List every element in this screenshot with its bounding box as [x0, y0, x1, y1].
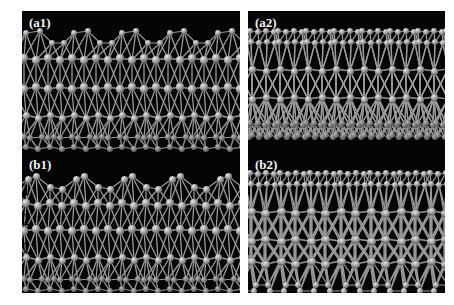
atom	[398, 181, 404, 187]
atom	[279, 238, 286, 245]
atom	[429, 238, 436, 245]
atom	[367, 170, 373, 176]
atom	[224, 83, 231, 90]
atom	[32, 56, 39, 63]
atom	[107, 146, 114, 153]
atom	[215, 144, 222, 151]
atom	[143, 144, 150, 151]
atom	[348, 39, 354, 45]
atom	[249, 96, 256, 103]
atom	[387, 288, 394, 293]
atom	[22, 54, 28, 61]
atom	[215, 112, 222, 119]
annotation-number: 1	[22, 181, 240, 199]
figure-canvas: (a1) (a2) 2121 (b1) (b2)	[0, 0, 454, 305]
atom	[360, 39, 366, 45]
atom	[131, 146, 138, 153]
annotation-number: 2	[22, 153, 240, 171]
atom	[428, 181, 434, 187]
atom	[278, 181, 284, 187]
atom	[171, 135, 178, 142]
atom	[56, 56, 63, 63]
atom	[303, 120, 310, 127]
atom	[443, 236, 446, 243]
atom	[389, 66, 396, 73]
atom	[323, 210, 330, 217]
atom	[152, 56, 159, 63]
atom	[375, 68, 382, 75]
atom	[155, 115, 162, 122]
atom	[303, 28, 309, 34]
atom	[429, 208, 436, 215]
atom	[263, 94, 270, 101]
atom	[371, 288, 378, 293]
atom	[359, 120, 366, 127]
atom	[283, 29, 289, 35]
atom	[315, 171, 321, 177]
atom	[97, 40, 104, 47]
atom	[343, 282, 350, 289]
atom	[248, 181, 254, 187]
atom	[324, 181, 330, 187]
atom	[375, 28, 381, 34]
atom	[320, 39, 326, 45]
atom	[405, 171, 411, 177]
atom	[414, 181, 420, 187]
atom	[249, 66, 256, 73]
atom	[92, 54, 99, 61]
atom	[23, 144, 30, 151]
atom	[47, 112, 54, 119]
atom	[68, 85, 75, 92]
atom-layer-a2	[248, 11, 445, 153]
atom	[404, 39, 410, 45]
atom	[331, 28, 337, 34]
atom	[181, 28, 188, 35]
panel-label-b1: (b1)	[29, 157, 51, 173]
atom	[369, 238, 376, 245]
atom	[291, 28, 297, 34]
atom	[152, 83, 159, 90]
atom	[104, 83, 111, 90]
atom	[375, 171, 381, 177]
atom	[249, 208, 256, 215]
atom	[193, 40, 200, 47]
atom	[285, 171, 291, 177]
atom	[429, 258, 436, 265]
atom	[164, 85, 171, 92]
atom	[399, 208, 406, 215]
atom	[248, 28, 253, 34]
atom	[443, 210, 446, 217]
atom	[333, 66, 340, 73]
atom	[416, 39, 422, 45]
atom	[263, 210, 270, 217]
atom	[292, 39, 298, 45]
atom	[248, 120, 253, 127]
atom	[188, 85, 195, 92]
atom	[415, 28, 421, 34]
atom	[423, 29, 429, 35]
atom	[305, 96, 312, 103]
atom	[265, 120, 272, 127]
atom	[333, 132, 340, 139]
atom	[277, 66, 284, 73]
atom	[283, 282, 290, 289]
atom	[347, 28, 353, 34]
atom	[323, 170, 329, 176]
annotation-arrow	[22, 199, 240, 211]
atom	[71, 144, 78, 151]
annotation-arrow	[22, 229, 240, 239]
atom	[201, 135, 208, 142]
atom	[257, 132, 264, 139]
atom	[305, 132, 312, 139]
atom	[333, 96, 340, 103]
atom	[219, 135, 226, 142]
atom	[164, 54, 171, 61]
atom	[295, 132, 302, 139]
atom	[431, 94, 438, 101]
atom	[167, 144, 174, 151]
atom	[236, 54, 240, 61]
atom	[361, 132, 368, 139]
atom	[309, 208, 316, 215]
atom	[179, 115, 186, 122]
atom	[424, 40, 430, 46]
